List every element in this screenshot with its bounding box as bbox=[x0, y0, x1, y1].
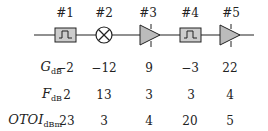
amplifier-icon bbox=[220, 24, 240, 47]
noise-figure-value: 4 bbox=[226, 88, 234, 102]
gain-value: 22 bbox=[222, 61, 237, 75]
row-label-otoi: OTOIdBm bbox=[8, 112, 62, 129]
noise-figure-value: 13 bbox=[96, 88, 111, 102]
gain-value: −3 bbox=[181, 61, 199, 75]
noise-figure-value: 3 bbox=[145, 88, 153, 102]
stage-label-5: #5 bbox=[222, 6, 240, 20]
noise-figure-value: 2 bbox=[63, 88, 71, 102]
mixer-icon bbox=[96, 27, 112, 43]
otoi-value: 5 bbox=[226, 114, 234, 128]
otoi-value: 20 bbox=[182, 114, 197, 128]
otoi-value: 3 bbox=[100, 114, 108, 128]
otoi-value: 4 bbox=[145, 114, 153, 128]
row-label-noise-figure: FdB bbox=[42, 86, 62, 103]
bandpass-filter-icon bbox=[180, 28, 201, 42]
stage-label-1: #1 bbox=[56, 6, 74, 20]
gain-value: −12 bbox=[91, 61, 116, 75]
bandpass-filter-icon bbox=[55, 28, 76, 42]
amplifier-icon bbox=[140, 24, 160, 47]
otoi-value: 23 bbox=[59, 114, 74, 128]
gain-value: −2 bbox=[56, 61, 74, 75]
stage-label-3: #3 bbox=[139, 6, 157, 20]
gain-value: 9 bbox=[145, 61, 153, 75]
noise-figure-value: 3 bbox=[187, 88, 195, 102]
stage-label-2: #2 bbox=[95, 6, 113, 20]
stage-label-4: #4 bbox=[181, 6, 199, 20]
